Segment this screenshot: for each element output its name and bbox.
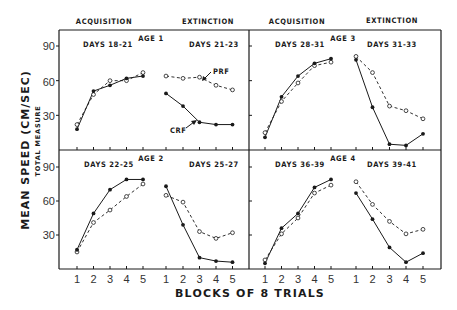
- crf-point-marker: [108, 83, 112, 87]
- age-label-4: AGE 4: [330, 154, 355, 163]
- prf-point-marker: [371, 71, 375, 75]
- age-label-2: AGE 2: [138, 154, 163, 163]
- x-axis-label: BLOCKS OF 8 TRIALS: [175, 287, 325, 300]
- y-tick-label: 60: [43, 195, 55, 207]
- prf-point-marker: [75, 123, 79, 127]
- x-tick-label: 1: [74, 273, 80, 285]
- crf-point-marker: [164, 91, 168, 95]
- crf-point-marker: [75, 248, 79, 252]
- prf-point-marker: [231, 231, 235, 235]
- crf-point-marker: [141, 178, 145, 182]
- crf-point-marker: [296, 74, 300, 78]
- prf-line: [265, 62, 331, 132]
- prf-point-marker: [421, 117, 425, 121]
- days-label-age3-ext: DAYS 31-33: [367, 40, 417, 49]
- crf-point-marker: [280, 95, 284, 99]
- crf-line: [265, 59, 331, 138]
- crf-point-marker: [371, 105, 375, 109]
- prf-line: [265, 185, 331, 260]
- prf-point-marker: [92, 93, 96, 97]
- x-tick-label: 5: [420, 273, 426, 285]
- prf-point-marker: [198, 230, 202, 234]
- prf-point-marker: [181, 200, 185, 204]
- arrowhead-icon: [191, 120, 197, 125]
- prf-point-marker: [329, 60, 333, 64]
- phase-header-acquisition-right: ACQUISITION: [269, 17, 325, 26]
- crf-point-marker: [329, 178, 333, 182]
- phase-header-extinction-right: EXTINCTION: [366, 16, 418, 25]
- x-tick-label: 2: [180, 273, 186, 285]
- crf-point-marker: [263, 261, 267, 265]
- x-tick-label: 5: [140, 273, 146, 285]
- crf-point-marker: [92, 89, 96, 93]
- prf-point-marker: [280, 100, 284, 104]
- prf-point-marker: [296, 216, 300, 220]
- crf-point-marker: [75, 127, 79, 131]
- x-tick-label: 5: [328, 273, 334, 285]
- prf-point-marker: [263, 131, 267, 135]
- prf-point-marker: [164, 74, 168, 78]
- age-label-1: AGE 1: [138, 34, 163, 43]
- crf-point-marker: [388, 142, 392, 146]
- annotation-prf-label: PRF: [213, 67, 230, 76]
- prf-point-marker: [214, 83, 218, 87]
- crf-point-marker: [181, 223, 185, 227]
- prf-line: [356, 182, 423, 234]
- prf-point-marker: [354, 180, 358, 184]
- x-tick-label: 4: [403, 273, 409, 285]
- prf-point-marker: [354, 55, 358, 59]
- plot-frame: [59, 30, 441, 269]
- x-tick-label: 2: [369, 273, 375, 285]
- crf-point-marker: [108, 188, 112, 192]
- x-tick-label: 3: [295, 273, 301, 285]
- prf-point-marker: [108, 208, 112, 212]
- crf-point-marker: [125, 178, 129, 182]
- prf-point-marker: [198, 75, 202, 79]
- crf-point-marker: [354, 191, 358, 195]
- x-tick-label: 3: [107, 273, 113, 285]
- crf-point-marker: [198, 256, 202, 260]
- crf-point-marker: [92, 212, 96, 216]
- y-axis-bottom: 90 60 30: [43, 161, 55, 241]
- crf-point-marker: [313, 186, 317, 190]
- crf-point-marker: [296, 212, 300, 216]
- phase-header-acquisition-left: ACQUISITION: [76, 17, 132, 26]
- days-label-age2-acq: DAYS 22-25: [84, 160, 134, 169]
- prf-point-marker: [214, 237, 218, 241]
- prf-point-marker: [404, 232, 408, 236]
- crf-point-marker: [231, 260, 235, 264]
- chart-canvas: ACQUISITION EXTINCTION ACQUISITION EXTIN…: [0, 0, 457, 310]
- x-tick-label: 4: [311, 273, 317, 285]
- phase-header-extinction-left: EXTINCTION: [182, 17, 234, 26]
- y-axis-label: MEAN SPEED (CM/SEC): [19, 70, 32, 230]
- crf-point-marker: [404, 143, 408, 147]
- prf-point-marker: [388, 220, 392, 224]
- crf-point-marker: [329, 57, 333, 61]
- age-label-3: AGE 3: [330, 34, 355, 43]
- days-label-age4-acq: DAYS 36-39: [275, 160, 325, 169]
- days-label-age1-acq: DAYS 18-21: [83, 40, 133, 49]
- crf-line: [265, 179, 331, 263]
- prf-point-marker: [421, 227, 425, 231]
- prf-point-marker: [125, 195, 129, 199]
- days-label-age1-ext: DAYS 21-23: [189, 40, 239, 49]
- crf-point-marker: [404, 260, 408, 264]
- x-tick-label: 1: [353, 273, 359, 285]
- crf-point-marker: [214, 123, 218, 127]
- x-tick-label: 5: [229, 273, 235, 285]
- crf-point-marker: [231, 123, 235, 127]
- crf-point-marker: [313, 61, 317, 65]
- prf-point-marker: [141, 71, 145, 75]
- annotation-prf: PRF: [202, 67, 230, 81]
- y-axis-sublabel: TOTAL MEASURE: [34, 105, 42, 176]
- y-tick-label: 60: [43, 76, 55, 88]
- x-tick-label: 4: [123, 273, 129, 285]
- x-tick-label: 3: [196, 273, 202, 285]
- prf-point-marker: [92, 221, 96, 225]
- prf-point-marker: [263, 258, 267, 262]
- x-tick-label: 4: [213, 273, 219, 285]
- crf-point-marker: [421, 251, 425, 255]
- crf-line: [356, 60, 423, 146]
- x-tick-label: 2: [278, 273, 284, 285]
- prf-point-marker: [108, 79, 112, 83]
